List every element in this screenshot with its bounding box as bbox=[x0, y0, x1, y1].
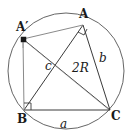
guide-line-aprime-c bbox=[25, 41, 108, 109]
right-angle-marker-aprime bbox=[21, 37, 26, 42]
side-label-c: c bbox=[45, 60, 52, 72]
segment-aprime-c-diameter bbox=[23, 39, 110, 110]
side-label-b: b bbox=[99, 52, 107, 64]
segment-aprime-b bbox=[23, 39, 24, 110]
vertex-label-c: C bbox=[111, 110, 121, 122]
vertex-label-a-prime: A′ bbox=[16, 21, 28, 33]
vertex-label-b: B bbox=[17, 113, 27, 125]
segment-aprime-a bbox=[23, 25, 83, 39]
vertex-label-a: A bbox=[79, 8, 88, 20]
geometry-diagram: A A′ B C a b c 2R bbox=[0, 0, 132, 137]
diameter-label-2r: 2R bbox=[72, 62, 89, 74]
side-label-a: a bbox=[60, 118, 67, 130]
